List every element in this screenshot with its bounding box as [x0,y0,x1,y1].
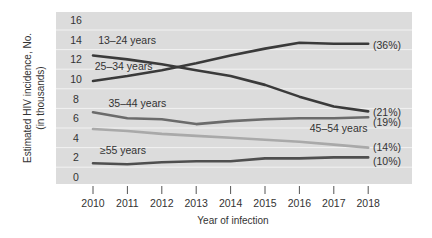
x-tick-label: 2011 [116,197,139,209]
series-label: 13–24 years [98,34,156,46]
x-tick-label: 2016 [288,197,312,209]
y-tick-label: 2 [73,151,79,163]
series-label: 45–54 years [310,122,368,134]
end-percentage-label: (14%) [373,141,401,153]
end-percentage-label: (36%) [373,39,401,51]
series-label: 25–34 years [95,60,153,72]
x-tick-label: 2017 [322,197,346,209]
x-tick-label: 2015 [253,197,277,209]
y-tick-label: 16 [70,14,82,26]
series-label: 35–44 years [108,97,166,109]
y-tick-label: 10 [70,73,82,85]
x-tick-label: 2018 [357,197,381,209]
end-percentage-label: (19%) [373,116,401,128]
x-tick-label: 2013 [185,197,209,209]
x-tick-label: 2012 [150,197,174,209]
x-axis-ticks: 201020112012201320142015201620172018 [81,186,380,209]
y-tick-label: 4 [73,132,79,144]
series-label: ≥55 years [100,144,146,156]
chart-canvas: 0246810121416 20102011201220132014201520… [0,0,432,238]
x-tick-label: 2014 [219,197,243,209]
x-tick-label: 2010 [81,197,105,209]
y-axis-title-line2: (in thousands) [35,66,46,129]
y-axis-title-line1: Estimated HIV incidence, No. [22,33,33,163]
x-axis-title: Year of infection [197,215,268,226]
y-tick-label: 12 [70,53,82,65]
y-tick-label: 6 [73,112,79,124]
y-tick-label: 8 [73,93,79,105]
y-tick-label: 14 [70,34,82,46]
end-percentage-label: (10%) [373,155,401,167]
y-tick-label: 0 [73,171,79,183]
hiv-incidence-line-chart: 0246810121416 20102011201220132014201520… [0,0,432,238]
